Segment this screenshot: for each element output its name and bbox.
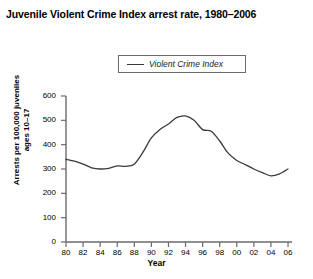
x-tick-label: 02 xyxy=(246,248,262,257)
x-tick-label: 88 xyxy=(126,248,142,257)
x-tick-label: 06 xyxy=(280,248,296,257)
x-tick-label: 84 xyxy=(92,248,108,257)
x-tick-label: 82 xyxy=(75,248,91,257)
x-tick-label: 98 xyxy=(212,248,228,257)
y-tick-label: 0 xyxy=(26,237,56,246)
x-tick-label: 92 xyxy=(160,248,176,257)
x-tick-label: 96 xyxy=(195,248,211,257)
y-axis-ticks xyxy=(61,96,66,242)
y-tick-label: 100 xyxy=(26,213,56,222)
x-axis-ticks xyxy=(66,242,288,247)
x-tick-label: 94 xyxy=(178,248,194,257)
x-axis-title: Year xyxy=(0,258,313,268)
x-tick-label: 00 xyxy=(229,248,245,257)
x-tick-label: 80 xyxy=(58,248,74,257)
y-axis-title: Arrests per 100,000 juveniles ages 10–17 xyxy=(12,65,32,195)
series-line-violent-crime-index xyxy=(66,116,288,176)
x-tick-label: 90 xyxy=(143,248,159,257)
x-tick-label: 86 xyxy=(109,248,125,257)
x-tick-label: 04 xyxy=(263,248,279,257)
chart-figure: Juvenile Violent Crime Index arrest rate… xyxy=(0,0,313,279)
data-series-group xyxy=(66,116,288,176)
